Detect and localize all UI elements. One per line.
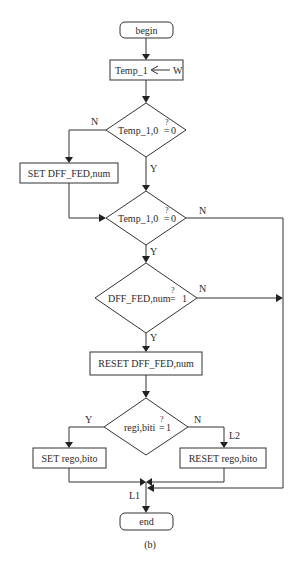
decision-1: Temp_1,0 ? = 0 [106,103,186,157]
decision-2: Temp_1,0 ? = 0 [106,191,186,245]
arrow-icon [140,478,146,486]
decision-1-value: 0 [171,125,176,136]
arrow-icon [142,96,150,103]
assign-right: W [173,65,183,76]
decision-4-op: = [159,422,165,433]
arrow-icon [99,214,106,222]
arrow-icon [142,506,150,513]
set-dff-node: SET DFF_FED,num [20,163,118,183]
edge-label-d2-yes: Y [150,246,157,257]
decision-4-expr: regi,biti [124,422,156,433]
arrow-icon [65,442,73,448]
decision-4: regi,biti ? = 1 [104,398,188,455]
end-label: end [139,516,153,527]
edge-label-d4-yes: Y [85,414,92,425]
decision-1-op: = [164,125,170,136]
decision-3-expr: DFF_FED,num [108,293,171,304]
edge-label-d1-yes: Y [150,163,157,174]
assign-node: Temp_1 W [110,60,183,80]
begin-label: begin [135,25,157,36]
decision-2-op: = [164,213,170,224]
edge-label-d1-no: N [91,116,98,127]
arrow-icon [142,391,150,398]
set-rego-node: SET rego,bito [33,448,106,468]
assign-left: Temp_1 [115,65,148,76]
end-node: end [120,513,173,530]
decision-3-op: = [170,293,176,304]
edge-label-l2: L2 [229,430,240,441]
edge-label-d3-yes: Y [150,332,157,343]
edge-label-l1: L1 [129,490,140,501]
decision-3: DFF_FED,num ? = 1 [95,263,197,333]
decision-2-value: 0 [171,213,176,224]
reset-dff-label: RESET DFF_FED,num [98,358,194,369]
arrow-icon [276,294,283,302]
set-dff-label: SET DFF_FED,num [28,168,111,179]
reset-dff-node: RESET DFF_FED,num [90,352,202,375]
arrow-icon [147,484,154,492]
arrow-icon [142,54,150,60]
decision-1-expr: Temp_1,0 [118,125,158,136]
decision-3-value: 1 [182,293,187,304]
figure-caption: (b) [144,539,156,551]
edge-label-d3-no: N [199,283,206,294]
flowchart: begin Temp_1 W Temp_1,0 ? = 0 N Y SET DF… [0,0,299,567]
edge-label-d4-no: N [194,414,201,425]
arrow-icon [142,256,150,263]
arrow-icon [220,442,228,448]
arrow-icon [142,346,150,352]
decision-2-expr: Temp_1,0 [118,213,158,224]
arrow-icon [146,478,152,486]
set-rego-label: SET rego,bito [42,453,98,464]
reset-rego-label: RESET rego,bito [189,453,258,464]
reset-rego-node: RESET rego,bito [180,448,266,468]
decision-4-value: 1 [166,422,171,433]
arrow-icon [65,157,73,163]
edge-label-d2-no: N [199,205,206,216]
begin-node: begin [120,22,173,38]
arrow-icon [142,185,150,191]
